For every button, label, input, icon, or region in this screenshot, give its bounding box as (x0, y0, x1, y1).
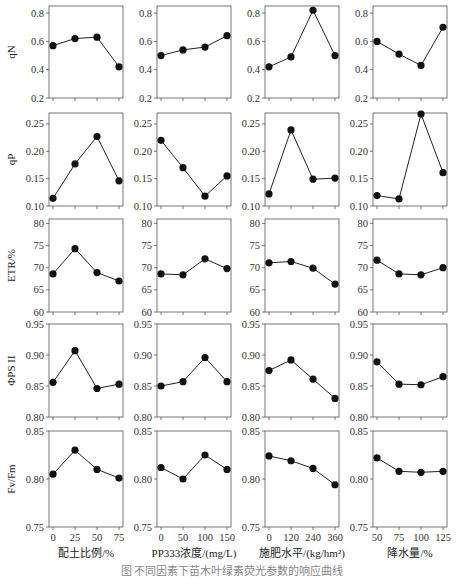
y-tick-label: 0.80 (134, 474, 152, 485)
data-point (179, 378, 186, 385)
data-point (223, 32, 230, 39)
y-tick-label: 65 (34, 284, 45, 295)
subplot: 0.100.150.200.25 (242, 113, 339, 212)
y-tick-label: 0.20 (350, 146, 368, 157)
plot-frame (49, 6, 123, 98)
y-tick-label: 70 (34, 262, 45, 273)
y-tick-label: 60 (34, 307, 45, 318)
data-point (373, 257, 380, 264)
data-point (309, 7, 316, 14)
x-tick-label: 0 (158, 532, 163, 543)
x-tick-label: 0 (266, 532, 271, 543)
figure-caption: 图 不同因素下苗木叶绿素荧光参数的响应曲线 (0, 562, 464, 578)
subplot: 0.100.150.200.25qP (5, 113, 123, 212)
data-point (71, 245, 78, 252)
y-tick-label: 0.4 (247, 64, 261, 75)
subplot: 0.800.850.900.95ΦPS II (5, 319, 123, 423)
data-line (269, 10, 335, 67)
x-axis-label: 配土比例/% (58, 546, 114, 559)
data-line (53, 450, 119, 478)
y-tick-label: 0.90 (26, 350, 44, 361)
y-tick-label: 0.15 (350, 173, 368, 184)
plot-frame (157, 113, 231, 206)
x-tick-label: 50 (92, 532, 103, 543)
y-tick-label: 0.6 (139, 36, 152, 47)
data-point (93, 34, 100, 41)
plot-frame (373, 113, 447, 206)
y-tick-label: 0.75 (242, 522, 260, 533)
y-tick-label: 0.85 (134, 381, 152, 392)
data-point (373, 38, 380, 45)
y-tick-label: 0.10 (350, 201, 368, 212)
data-point (93, 269, 100, 276)
subplot: 0.100.150.200.25 (134, 113, 231, 212)
y-tick-label: 0.10 (134, 201, 152, 212)
x-tick-label: 240 (305, 532, 321, 543)
plot-frame (265, 219, 339, 312)
y-tick-label: 0.80 (26, 412, 44, 423)
subplot: 0.750.800.85050100150PP333浓度/(mg/L) (134, 426, 237, 561)
data-point (417, 271, 424, 278)
data-point (331, 175, 338, 182)
y-axis-label: ETR/% (5, 249, 17, 282)
data-point (331, 481, 338, 488)
x-tick-label: 75 (394, 532, 405, 543)
data-point (395, 381, 402, 388)
data-point (417, 381, 424, 388)
subplot: 6065707580 (142, 218, 232, 318)
data-line (377, 362, 443, 385)
data-point (417, 110, 424, 117)
data-line (53, 249, 119, 281)
data-point (395, 195, 402, 202)
data-point (115, 277, 122, 284)
y-tick-label: 65 (358, 284, 369, 295)
data-line (161, 140, 227, 196)
y-tick-label: 0.90 (134, 350, 152, 361)
data-point (439, 373, 446, 380)
data-point (309, 265, 316, 272)
y-tick-label: 0.20 (134, 146, 152, 157)
y-tick-label: 0.6 (247, 36, 260, 47)
plot-frame (373, 6, 447, 98)
x-tick-label: 25 (70, 532, 81, 543)
data-point (201, 255, 208, 262)
data-point (179, 271, 186, 278)
y-tick-label: 0.4 (31, 64, 45, 75)
data-point (331, 281, 338, 288)
y-tick-label: 80 (358, 218, 369, 229)
x-axis-label: 降水量/% (387, 546, 432, 559)
y-tick-label: 0.8 (139, 8, 152, 19)
data-point (331, 52, 338, 59)
data-point (223, 265, 230, 272)
subplot: 0.800.850.900.95 (242, 319, 339, 423)
y-tick-label: 0.85 (26, 426, 44, 437)
y-tick-label: 0.85 (134, 426, 152, 437)
y-tick-label: 65 (142, 284, 153, 295)
y-tick-label: 0.2 (355, 93, 368, 104)
data-line (269, 456, 335, 485)
y-tick-label: 0.8 (31, 8, 44, 19)
data-point (71, 35, 78, 42)
x-tick-label: 100 (197, 532, 213, 543)
subplot: 0.750.800.850120240360施肥水平/(kg/hm²) (242, 426, 346, 561)
y-tick-label: 0.25 (134, 118, 152, 129)
data-point (439, 468, 446, 475)
data-point (49, 471, 56, 478)
data-point (93, 133, 100, 140)
y-tick-label: 0.20 (26, 146, 44, 157)
y-tick-label: 80 (250, 218, 261, 229)
subplot: 0.100.150.200.25 (350, 110, 447, 211)
y-tick-label: 70 (250, 262, 261, 273)
y-tick-label: 60 (142, 307, 153, 318)
data-point (287, 258, 294, 265)
plot-frame (157, 324, 231, 417)
data-point (395, 468, 402, 475)
y-axis-label: Fv/Fm (5, 464, 17, 494)
data-point (265, 190, 272, 197)
data-point (201, 193, 208, 200)
data-line (377, 114, 443, 199)
data-point (49, 270, 56, 277)
plot-frame (265, 113, 339, 206)
data-point (395, 270, 402, 277)
subplot: 0.800.850.900.95 (134, 319, 231, 423)
